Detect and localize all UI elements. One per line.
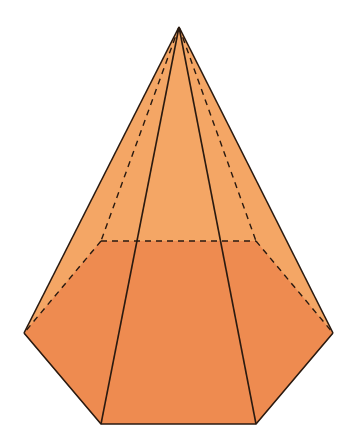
hexagonal-pyramid-figure — [0, 0, 357, 441]
